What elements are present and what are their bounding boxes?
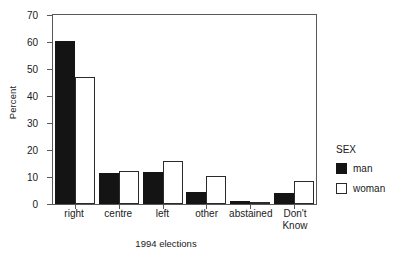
x-axis-category-label: right: [52, 208, 96, 231]
bar-man: [230, 201, 250, 204]
legend-entries: manwoman: [336, 163, 398, 194]
legend-title: SEX: [336, 144, 398, 155]
y-axis-tick-label: 60: [27, 38, 38, 48]
bar-group: [97, 15, 141, 204]
legend-item-man: man: [336, 163, 398, 174]
y-axis-title: Percent: [6, 0, 20, 205]
bar-man: [143, 172, 163, 204]
bar-group: [228, 15, 272, 204]
bar-woman: [294, 181, 314, 204]
legend-label-woman: woman: [353, 183, 385, 194]
bar-woman: [75, 77, 95, 204]
y-axis-tick-label: 70: [27, 11, 38, 21]
x-axis-tick-labels: rightcentreleftotherabstainedDon't Know: [52, 208, 317, 231]
bar-group: [53, 15, 97, 204]
legend: SEX manwoman: [336, 144, 398, 203]
legend-swatch-woman: [336, 183, 347, 194]
bar-man: [274, 193, 294, 204]
legend-swatch-man: [336, 163, 347, 174]
bar-group: [272, 15, 316, 204]
y-axis-tick-label: 40: [27, 92, 38, 102]
bar-woman: [163, 161, 183, 204]
bar-woman: [119, 171, 139, 204]
y-axis-tick-label: 20: [27, 146, 38, 156]
y-axis-tick-label: 50: [27, 65, 38, 75]
x-axis-title: 1994 elections: [52, 238, 280, 249]
x-axis-category-label: left: [140, 208, 184, 231]
x-axis-category-label: Don't Know: [273, 208, 317, 231]
bar-chart-figure: Percent 010203040506070 rightcentrelefto…: [0, 0, 398, 264]
y-axis-tick: 0: [47, 204, 53, 205]
plot-area: 010203040506070: [52, 14, 317, 205]
bar-man: [99, 173, 119, 204]
bar-man: [55, 41, 75, 204]
bar-woman: [206, 176, 226, 204]
legend-item-woman: woman: [336, 183, 398, 194]
x-axis-category-label: other: [185, 208, 229, 231]
bar-group: [141, 15, 185, 204]
y-axis-tick-label: 0: [32, 200, 38, 210]
x-axis-category-label: centre: [96, 208, 140, 231]
bar-woman: [250, 202, 270, 204]
bar-group: [184, 15, 228, 204]
y-axis-tick-label: 10: [27, 173, 38, 183]
bar-man: [186, 192, 206, 204]
y-axis-tick-label: 30: [27, 119, 38, 129]
bar-series-container: [53, 15, 316, 204]
x-axis-category-label: abstained: [229, 208, 273, 231]
y-axis-title-text: Percent: [8, 86, 19, 119]
legend-label-man: man: [353, 163, 372, 174]
